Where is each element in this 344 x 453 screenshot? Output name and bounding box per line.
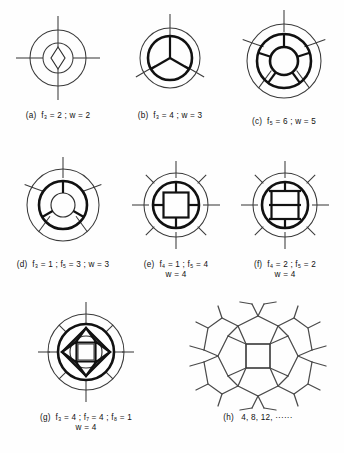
panel-g-wedges (62, 328, 110, 376)
panel-h-ring1 (218, 316, 298, 396)
panel-b: (b) f₃ = 4 ; w = 3 (114, 6, 226, 127)
panel-b-caption: (b) f₃ = 4 ; w = 3 (138, 111, 202, 121)
panel-g-core-diamond (62, 328, 110, 376)
panel-f-caption-line2: w = 4 (254, 270, 316, 280)
panel-d-outer-links (36, 169, 90, 222)
figure-row-1: (a) f₃ = 2 ; w = 2 (0, 6, 344, 127)
panel-f-diagram (235, 155, 335, 259)
panel-a-caption: (a) f₃ = 2 ; w = 2 (26, 111, 90, 121)
panel-g-inner-ring (70, 336, 102, 368)
panel-e-inscribed-square (164, 193, 189, 218)
panel-d: (d) f₃ = 1 ; f₅ = 3 ; w = 3 (4, 155, 122, 281)
panel-h: (h) 4, 8, 12, ······ (172, 300, 344, 434)
panel-h-caption: (h) 4, 8, 12, ······ (223, 413, 292, 423)
panel-a: (a) f₃ = 2 ; w = 2 (2, 6, 114, 127)
panel-g-caption-line1: (g) f₃ = 4 ; f₇ = 4 ; f₈ = 1 (40, 413, 132, 422)
panel-c-caption: (c) f₅ = 6 ; w = 5 (252, 117, 316, 127)
panel-g-diagram (27, 300, 145, 412)
panel-h-central-square (246, 344, 270, 368)
figure-row-2: (d) f₃ = 1 ; f₅ = 3 ; w = 3 (0, 155, 344, 281)
panel-g-outer-links (48, 314, 124, 390)
panel-f-ladder (269, 191, 301, 219)
panel-h-diagram (178, 300, 338, 412)
panel-f-caption-line1: (f) f₄ = 2 ; f₅ = 2 (254, 260, 316, 269)
panel-d-inner-ring (51, 193, 75, 217)
panel-e-caption-line1: (e) f₄ = 1 ; f₅ = 4 (144, 260, 208, 269)
panel-a-diagram (6, 6, 110, 110)
panel-a-spokes (16, 16, 100, 100)
panel-c-diagram (229, 6, 339, 116)
panel-d-caption: (d) f₃ = 1 ; f₅ = 3 ; w = 3 (17, 260, 110, 270)
panel-f: (f) f₄ = 2 ; f₅ = 2w = 4 (230, 155, 340, 281)
panel-c: (c) f₅ = 6 ; w = 5 (226, 6, 342, 127)
panel-e: (e) f₄ = 1 ; f₅ = 4w = 4 (122, 155, 230, 281)
panel-e-caption-line2: w = 4 (144, 270, 208, 280)
panel-f-caption: (f) f₄ = 2 ; f₅ = 2w = 4 (254, 260, 316, 281)
panel-e-diagram (126, 155, 226, 259)
panel-h-ring2 (190, 302, 326, 410)
panel-g: (g) f₃ = 4 ; f₇ = 4 ; f₈ = 1w = 4 (0, 300, 172, 434)
panel-a-core-diamond (51, 47, 65, 69)
panel-d-spokes (25, 157, 102, 232)
panel-b-diagram (118, 6, 222, 110)
panel-g-middle-ring (58, 324, 114, 380)
panel-d-diagram (9, 155, 117, 259)
panel-g-core-square (78, 344, 94, 360)
figure-row-3: (g) f₃ = 4 ; f₇ = 4 ; f₈ = 1w = 4 (0, 300, 344, 434)
panel-g-caption-line2: w = 4 (40, 423, 132, 433)
panel-g-caption: (g) f₃ = 4 ; f₇ = 4 ; f₈ = 1w = 4 (40, 413, 132, 434)
figure-sheet: (a) f₃ = 2 ; w = 2 (0, 0, 344, 453)
panel-e-caption: (e) f₄ = 1 ; f₅ = 4w = 4 (144, 260, 208, 281)
panel-c-outer-spoke-links (256, 24, 312, 77)
panel-c-spokes (243, 10, 326, 88)
panel-c-inner-ring (270, 47, 298, 75)
